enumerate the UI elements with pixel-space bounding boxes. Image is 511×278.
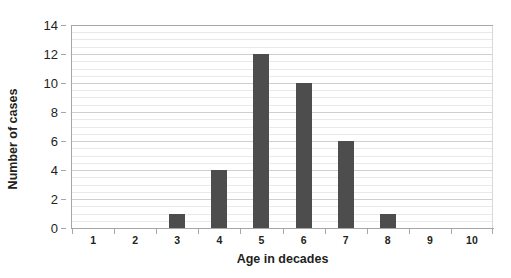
- y-axis-tick-mark: [61, 83, 66, 84]
- bar-chart-figure: Number of cases 02468101214 12345678910 …: [0, 0, 511, 278]
- y-axis-tick-label: 2: [24, 193, 58, 206]
- x-axis-tick-label: 4: [216, 234, 222, 246]
- y-axis-tick-label: 12: [24, 48, 58, 61]
- bar: [253, 54, 269, 228]
- x-axis-tick-labels: 12345678910: [72, 234, 493, 252]
- y-axis-tick-label: 10: [24, 77, 58, 90]
- x-axis-tick-label: 5: [259, 234, 265, 246]
- x-axis-tick-label: 6: [301, 234, 307, 246]
- y-axis-tick-mark: [61, 112, 66, 113]
- bar: [338, 141, 354, 228]
- y-axis-tick-mark: [61, 141, 66, 142]
- x-axis-tick-label: 9: [427, 234, 433, 246]
- y-axis-tick-mark: [61, 54, 66, 55]
- x-axis-tick-label: 7: [343, 234, 349, 246]
- y-axis-tick-label: 8: [24, 106, 58, 119]
- x-axis-tick-label: 1: [90, 234, 96, 246]
- bar: [380, 214, 396, 229]
- x-axis-tick-label: 8: [385, 234, 391, 246]
- y-axis-tick-labels: 02468101214: [26, 25, 66, 228]
- bar: [211, 170, 227, 228]
- y-axis-tick-mark: [61, 25, 66, 26]
- bars-layer: [72, 25, 493, 228]
- bar: [296, 83, 312, 228]
- x-axis-tick-label: 2: [132, 234, 138, 246]
- y-axis-tick-label: 14: [24, 19, 58, 32]
- plot-area: [72, 25, 493, 228]
- y-axis-title: Number of cases: [0, 0, 26, 278]
- y-axis-tick-label: 4: [24, 164, 58, 177]
- x-axis-tick-label: 10: [466, 234, 478, 246]
- y-axis-tick-label: 6: [24, 135, 58, 148]
- x-axis-tick-label: 3: [174, 234, 180, 246]
- y-axis-tick-mark: [61, 170, 66, 171]
- y-axis-tick-mark: [61, 199, 66, 200]
- x-axis-title: Age in decades: [72, 252, 493, 266]
- y-axis-tick-label: 0: [24, 222, 58, 235]
- bar: [169, 214, 185, 229]
- y-axis-tick-mark: [61, 228, 66, 229]
